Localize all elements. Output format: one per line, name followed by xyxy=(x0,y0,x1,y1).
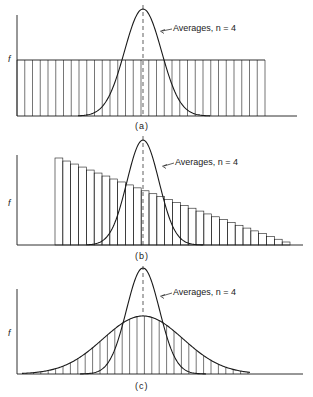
panel-b-histogram-bar xyxy=(274,239,282,245)
panel-b-histogram-bar xyxy=(173,202,181,245)
panel-b-histogram-bar xyxy=(126,185,134,245)
central-limit-figure xyxy=(0,0,313,397)
panel-b-histogram-bar xyxy=(86,170,94,245)
panel-c-y-label: f xyxy=(8,328,11,338)
panel-b-annotation: Averages, n = 4 xyxy=(175,157,238,167)
panel-b-histogram-bar xyxy=(94,173,102,245)
panel-b-histogram-bar xyxy=(71,164,79,245)
panel-b-histogram-bar xyxy=(267,236,275,245)
panel-b-averages-curve xyxy=(87,140,203,245)
panel-c-population-curve xyxy=(22,316,250,373)
panel-b-histogram-bar xyxy=(235,225,243,245)
panel-b-histogram-bar xyxy=(63,161,71,245)
panel-c-caption: (c) xyxy=(135,381,149,391)
panel-a-y-label: f xyxy=(8,54,11,64)
panel-b-histogram-bar xyxy=(55,158,63,245)
panel-a-annotation: Averages, n = 4 xyxy=(173,23,236,33)
panel-a-caption: (a) xyxy=(135,121,149,131)
panel-b-histogram-bar xyxy=(259,234,267,245)
panel-b-y-label: f xyxy=(8,198,11,208)
panel-b-annotation-arrow-icon xyxy=(163,163,175,169)
panel-b-histogram-bar xyxy=(188,208,196,245)
panel-b-histogram-bar xyxy=(220,220,228,245)
panel-b-histogram-bar xyxy=(196,211,204,245)
panel-b-histogram-bar xyxy=(212,217,220,245)
panel-c-annotation: Averages, n = 4 xyxy=(173,287,236,297)
panel-b-histogram-bar xyxy=(157,197,165,245)
panel-a-annotation-arrow-icon xyxy=(161,29,173,34)
panel-b-histogram-bar xyxy=(204,214,212,245)
panel-b-histogram-bar xyxy=(79,167,87,245)
panel-b-histogram-bar xyxy=(243,228,251,245)
panel-b-caption: (b) xyxy=(135,251,149,261)
panel-c-annotation-arrow-icon xyxy=(161,293,173,299)
panel-b-histogram-bar xyxy=(110,179,118,245)
panel-b-histogram-bar xyxy=(251,231,259,245)
panel-b-histogram-bar xyxy=(133,188,141,245)
panel-b-histogram-bar xyxy=(227,222,235,245)
panel-b-histogram-bar xyxy=(149,194,157,245)
panel-b-histogram-bar xyxy=(141,191,149,245)
